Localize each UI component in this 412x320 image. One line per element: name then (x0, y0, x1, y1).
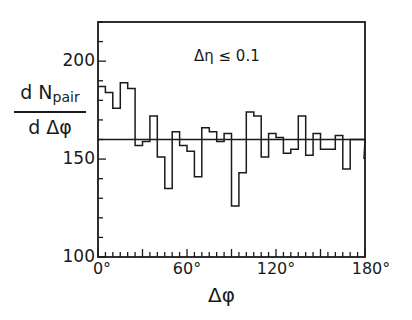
histogram-step-line (98, 83, 365, 206)
x-tick-label: 180° (341, 259, 401, 278)
x-tick-label: 60° (157, 259, 217, 278)
y-label-subscript: pair (53, 89, 80, 105)
y-tick-label: 200 (45, 50, 95, 70)
annotation-delta-eta: Δη ≤ 0.1 (194, 47, 260, 65)
x-tick-label: 0° (72, 259, 132, 278)
x-axis-label: Δφ (208, 283, 235, 307)
y-axis-label: d Npair d Δφ (14, 80, 86, 139)
y-label-numerator-text: d N (20, 81, 52, 103)
x-tick-label: 120° (246, 259, 306, 278)
fraction-bar (14, 111, 86, 113)
y-label-denominator: d Δφ (14, 115, 86, 139)
y-label-numerator: d Npair (14, 80, 86, 109)
y-tick-label: 150 (45, 148, 95, 168)
